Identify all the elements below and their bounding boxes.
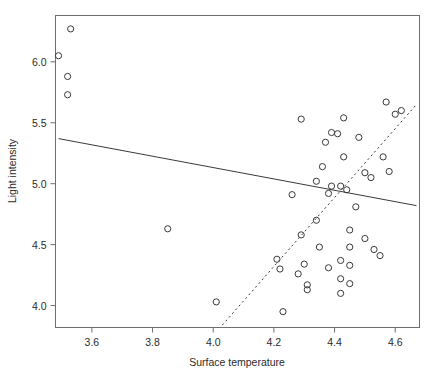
figure-background: [0, 0, 434, 377]
y-tick-label: 5.0: [32, 178, 47, 190]
y-tick-label: 5.5: [32, 117, 47, 129]
x-tick-label: 4.6: [388, 336, 403, 348]
scatter-plot-figure: 3.63.84.04.24.44.6 4.04.55.05.56.0 Surfa…: [0, 0, 434, 377]
y-tick-label: 4.0: [32, 300, 47, 312]
x-tick-label: 3.6: [85, 336, 100, 348]
x-tick-label: 4.0: [206, 336, 221, 348]
chart-canvas: 3.63.84.04.24.44.6 4.04.55.05.56.0 Surfa…: [0, 0, 434, 377]
y-tick-label: 6.0: [32, 56, 47, 68]
y-axis-title: Light intensity: [6, 138, 18, 203]
x-tick-label: 4.2: [267, 336, 282, 348]
x-tick-label: 3.8: [145, 336, 160, 348]
x-axis-title: Surface temperature: [189, 356, 285, 368]
y-tick-label: 4.5: [32, 239, 47, 251]
x-tick-label: 4.4: [327, 336, 342, 348]
